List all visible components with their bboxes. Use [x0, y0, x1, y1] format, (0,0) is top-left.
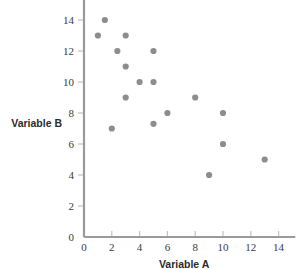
data-point — [150, 79, 156, 85]
y-axis-ticks: 02468101214 — [63, 14, 84, 243]
data-point — [123, 32, 129, 38]
data-point — [114, 48, 120, 54]
data-point — [192, 94, 198, 100]
y-tick-label: 12 — [63, 45, 74, 57]
data-point — [137, 79, 143, 85]
x-tick-label: 10 — [218, 241, 230, 253]
y-tick-label: 4 — [69, 169, 75, 181]
data-point — [220, 110, 226, 116]
data-point — [150, 48, 156, 54]
x-axis-title: Variable A — [159, 258, 210, 269]
y-tick-label: 10 — [63, 76, 75, 88]
data-point — [123, 63, 129, 69]
y-tick-label: 0 — [69, 231, 75, 243]
x-axis-ticks: 02468101214 — [81, 231, 284, 253]
x-tick-label: 4 — [137, 241, 143, 253]
x-tick-label: 14 — [273, 241, 285, 253]
x-tick-label: 0 — [81, 241, 87, 253]
data-point — [102, 17, 108, 23]
data-point — [220, 141, 226, 147]
x-tick-label: 12 — [245, 241, 256, 253]
data-point — [206, 172, 212, 178]
data-point — [164, 110, 170, 116]
plot-area: 02468101214 02468101214 Variable B Varia… — [0, 0, 307, 269]
y-tick-label: 8 — [69, 107, 75, 119]
x-tick-label: 8 — [192, 241, 198, 253]
x-tick-label: 6 — [165, 241, 171, 253]
data-point — [150, 121, 156, 127]
x-tick-label: 2 — [109, 241, 115, 253]
y-tick-label: 6 — [69, 138, 75, 150]
data-point — [123, 94, 129, 100]
y-tick-label: 14 — [63, 14, 75, 26]
data-point — [109, 125, 115, 131]
data-point — [262, 156, 268, 162]
y-axis-title: Variable B — [11, 117, 62, 129]
y-tick-label: 2 — [69, 200, 75, 212]
data-points — [95, 17, 268, 178]
scatter-chart: 02468101214 02468101214 Variable B Varia… — [0, 0, 307, 269]
data-point — [95, 32, 101, 38]
